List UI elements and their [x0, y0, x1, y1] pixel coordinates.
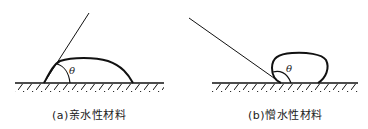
hatch-ground-b: [212, 84, 358, 92]
panel-a-hydrophilic: θ: [15, 13, 164, 92]
caption-b: (b)憎水性材料: [248, 106, 323, 122]
theta-label-b: θ: [286, 63, 292, 74]
tangent-line-a: [44, 13, 89, 83]
caption-a: (a)亲水性材料: [52, 106, 126, 122]
droplet-b: [272, 53, 328, 83]
hatch-ground-a: [15, 84, 164, 92]
theta-label-a: θ: [69, 65, 75, 76]
tangent-line-b: [189, 18, 281, 83]
panel-b-hydrophobic: θ: [189, 18, 358, 92]
